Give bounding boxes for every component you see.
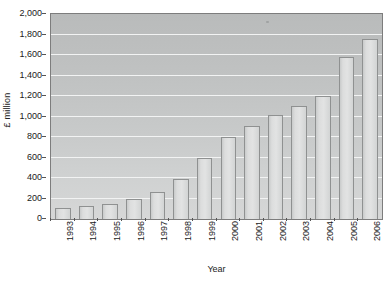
y-axis-tick-label: 200 [27,194,42,203]
bar-chart: £ million 02004006008001,0001,2001,4001,… [0,0,388,283]
bar [150,192,166,219]
x-axis-tick-label: 2004 [326,221,335,241]
x-axis-tick-mark [334,218,335,221]
y-axis-tick-label: 1,800 [19,30,42,39]
gridline [51,177,382,178]
y-axis-tick-label: 1,600 [19,50,42,59]
y-axis-tick-mark [42,157,46,158]
y-axis-tick-mark [42,136,46,137]
gridline [51,95,382,96]
y-axis-tick-mark [42,177,46,178]
x-axis-tick-mark [97,218,98,221]
gridline [51,157,382,158]
y-axis-tick-mark [42,34,46,35]
x-axis-tick-mark [74,218,75,221]
y-axis-tick-label: 1,200 [19,91,42,100]
y-axis-tick-mark [42,116,46,117]
x-axis-tick-label: 2001 [255,221,264,241]
x-axis-tick-mark [50,218,51,221]
y-axis-tick-label: 1,400 [19,71,42,80]
x-axis-tick-label: 1997 [160,221,169,241]
gridline [51,34,382,35]
x-axis-tick-label: 1993 [66,221,75,241]
x-axis-title: Year [50,264,383,274]
x-axis-tick-label: 1996 [137,221,146,241]
x-axis-tick-mark [216,218,217,221]
y-axis-tick-mark [42,13,46,14]
gridline [51,116,382,117]
bar [291,106,307,219]
y-axis-tick-mark [42,218,46,219]
x-axis-tick-label: 2005 [350,221,359,241]
bar [268,115,284,219]
x-axis-tick-label: 1995 [113,221,122,241]
bar [126,199,142,219]
x-axis-tick-mark [286,218,287,221]
x-axis-tick-mark [310,218,311,221]
x-axis-tick-mark [263,218,264,221]
x-axis-tick-mark [168,218,169,221]
y-axis-tick-mark [42,54,46,55]
x-axis-tick-label: 2000 [231,221,240,241]
x-axis-tick-label: 1999 [208,221,217,241]
bar [197,158,213,220]
x-axis-tick-mark [145,218,146,221]
y-axis-tick-label: 400 [27,173,42,182]
plot-area [50,13,383,220]
x-axis-tick-label: 2002 [279,221,288,241]
y-axis-tick-mark [42,198,46,199]
bar [221,137,237,219]
x-axis-tick-label: 1994 [89,221,98,241]
y-axis-title-text: £ million [2,93,12,128]
y-axis-tick-label: 800 [27,132,42,141]
x-axis-tick-labels: 1993199419951996199719981999200020012002… [50,221,383,261]
x-axis-tick-mark [357,218,358,221]
bar [339,57,355,219]
x-axis-tick-label: 2003 [302,221,311,241]
bar [244,126,260,219]
bar [102,204,118,219]
x-axis-tick-mark [192,218,193,221]
bar [173,179,189,219]
y-axis-tick-mark [42,75,46,76]
gridline [51,75,382,76]
gridline [51,136,382,137]
gridline [51,54,382,55]
y-axis-tick-label: 1,000 [19,112,42,121]
x-axis-tick-mark [239,218,240,221]
bar [55,208,71,219]
x-axis-tick-label: 1998 [184,221,193,241]
y-axis-tick-labels: 02004006008001,0001,2001,4001,6001,8002,… [12,8,46,226]
bar [315,96,331,219]
x-axis-tick-label: 2006 [373,221,382,241]
y-axis-tick-label: 600 [27,153,42,162]
bar [79,206,95,219]
background-speck [266,21,269,23]
y-axis-tick-mark [42,95,46,96]
x-axis-tick-mark [121,218,122,221]
bar [362,39,378,219]
y-axis-tick-label: 2,000 [19,9,42,18]
gridline [51,198,382,199]
